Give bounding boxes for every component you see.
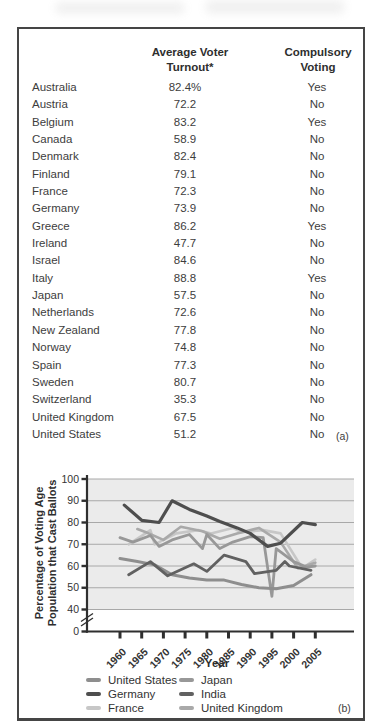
y-axis-label-line: Population that Cast Ballots [46,472,59,634]
table-row: Denmark82.4No [19,150,363,167]
legend-item: Japan [179,673,283,687]
table-row: Italy88.8Yes [19,272,363,289]
compulsory-cell: No [287,341,347,353]
table-row: Spain77.3No [19,359,363,376]
country-cell: Norway [32,341,71,353]
legend-swatch [179,678,194,683]
turnout-cell: 72.2 [137,98,233,110]
compulsory-cell: No [287,306,347,318]
turnout-cell: 72.3 [137,185,233,197]
country-table: Australia82.4%YesAustria72.2NoBelgium83.… [19,81,363,445]
turnout-cell: 73.9 [137,202,233,214]
compulsory-cell: No [287,168,347,180]
turnout-cell: 88.8 [137,272,233,284]
scan-smudge [55,2,185,14]
country-cell: Switzerland [32,393,91,405]
y-tick-label: 0 [73,625,79,637]
legend-label: United Kingdom [201,702,283,714]
compulsory-cell: No [287,98,347,110]
country-cell: Netherlands [32,306,94,318]
legend-label: India [201,688,226,700]
compulsory-cell: No [287,150,347,162]
legend-swatch [179,706,194,711]
table-row: France72.3No [19,185,363,202]
table-row: Switzerland35.3No [19,393,363,410]
legend-item: France [86,701,179,715]
x-axis-label: Year [172,657,262,669]
legend-item: India [179,687,283,701]
turnout-cell: 80.7 [137,376,233,388]
figure-voter-turnout: Average Voter Turnout* Compulsory Voting… [0,0,383,727]
country-cell: Spain [32,359,61,371]
x-tick-label: 2005 [299,645,324,670]
y-tick-label: 50 [67,581,79,593]
table-row: Netherlands72.6No [19,306,363,323]
compulsory-cell: Yes [287,272,347,284]
country-cell: Sweden [32,376,74,388]
table-row: Greece86.2Yes [19,220,363,237]
header-line: Compulsory [258,45,378,60]
compulsory-cell: Yes [287,116,347,128]
y-tick-label: 80 [67,516,79,528]
y-axis-label-line: Percentage of Voting Age [33,472,46,634]
legend-label: United States [108,674,177,686]
legend-item: Germany [86,687,179,701]
country-cell: New Zealand [32,324,100,336]
column-header-compulsory-voting: Compulsory Voting [258,45,378,74]
compulsory-cell: No [287,393,347,405]
compulsory-cell: No [287,359,347,371]
turnout-cell: 82.4% [137,81,233,93]
x-tick-label: 1960 [103,645,128,670]
compulsory-cell: Yes [287,81,347,93]
y-axis-label: Percentage of Voting Age Population that… [33,472,59,634]
table-row: United States51.2No [19,428,363,445]
table-row: Canada58.9No [19,133,363,150]
compulsory-cell: No [287,237,347,249]
table-row: Japan57.5No [19,289,363,306]
compulsory-cell: No [287,289,347,301]
table-row: New Zealand77.8No [19,324,363,341]
turnout-cell: 72.6 [137,306,233,318]
x-tick-label: 2000 [277,645,302,670]
turnout-cell: 77.3 [137,359,233,371]
scan-smudge [205,0,345,14]
legend-column: JapanIndiaUnited Kingdom [179,673,283,715]
country-cell: Ireland [32,237,67,249]
country-cell: France [32,185,68,197]
compulsory-cell: No [287,411,347,423]
table-row: Ireland47.7No [19,237,363,254]
y-tick-label: 90 [67,494,79,506]
table-row: Sweden80.7No [19,376,363,393]
country-cell: Israel [32,254,60,266]
legend-column: United StatesGermanyFrance [86,673,179,715]
turnout-cell: 82.4 [137,150,233,162]
turnout-cell: 74.8 [137,341,233,353]
table-row: Austria72.2No [19,98,363,115]
turnout-cell: 58.9 [137,133,233,145]
country-cell: Australia [32,81,77,93]
y-tick-label: 70 [67,538,79,550]
country-cell: Japan [32,289,63,301]
header-line: Voting [258,60,378,75]
table-row: Israel84.6No [19,254,363,271]
turnout-cell: 86.2 [137,220,233,232]
turnout-line-chart: 0405060708090100196019651970197519801985… [60,472,364,672]
x-tick-label: 1965 [125,645,150,670]
country-cell: Germany [32,202,79,214]
table-row: United Kingdom67.5No [19,411,363,428]
compulsory-cell: No [287,254,347,266]
column-header-average-voter-turnout: Average Voter Turnout* [129,45,251,74]
country-cell: Finland [32,168,70,180]
legend-swatch [179,692,194,697]
turnout-cell: 67.5 [137,411,233,423]
panel-a-marker: (a) [336,430,349,442]
country-cell: Canada [32,133,72,145]
legend-label: Japan [201,674,232,686]
header-line: Average Voter [129,45,251,60]
turnout-cell: 84.6 [137,254,233,266]
turnout-cell: 79.1 [137,168,233,180]
compulsory-cell: Yes [287,220,347,232]
legend-label: France [108,702,144,714]
header-line: Turnout* [129,60,251,75]
turnout-cell: 77.8 [137,324,233,336]
